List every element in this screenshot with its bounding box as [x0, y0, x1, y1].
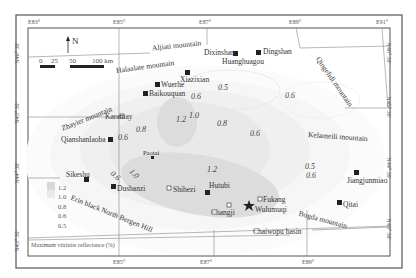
map-figure: N 0 25 50 100 km E83° E85° E87° E89° E91… [0, 0, 416, 278]
lat-tick-right-43: N43° 30' [386, 218, 392, 239]
legend-title: Maximum vitrinite reflectance (%) [31, 242, 115, 248]
city-wulumuqi: Wulumuqi [255, 206, 287, 214]
scale-label-50: 50 [69, 58, 76, 65]
contour-label-0-5-north: 0.5 [218, 84, 228, 92]
contour-label-0-6-nw: 0.6 [191, 93, 201, 101]
scale-label-25: 25 [51, 58, 58, 65]
lon-tick-bottom-e85: E85° [113, 259, 125, 265]
lat-tick-right-45: N45° 30' [386, 96, 392, 117]
basin-chaiwopu: Chaiwopu basin [253, 228, 302, 236]
legend-item-0-8: 0.8 [58, 204, 66, 211]
lon-tick-e91: E91° [376, 19, 388, 25]
lat-tick-left-45: N45° 30' [14, 102, 20, 123]
scale-label-0: 0 [39, 58, 43, 65]
city-huanghuagou: Huanghuagou [222, 58, 264, 66]
contour-label-0-6-west: 0.6 [118, 134, 128, 142]
lon-tick-e83: E83° [28, 19, 40, 25]
city-wuerhe: Wuerhe [161, 81, 184, 89]
lon-tick-e89: E89° [289, 19, 301, 25]
legend-item-1-2: 1.2 [58, 185, 66, 192]
city-sikeshu: Sikeshu [66, 171, 90, 179]
city-baikouquan: Baikouquan [149, 90, 185, 98]
contour-label-1-2-north: 1.2 [176, 116, 186, 124]
lon-tick-e87: E87° [199, 19, 211, 25]
contour-label-0-8-west: 0.8 [136, 126, 146, 134]
legend-item-1-0: 1.0 [58, 194, 66, 201]
lon-tick-bottom-e89: E89° [302, 259, 314, 265]
city-shihezi: Shihezi [173, 186, 196, 194]
city-changji: Changji [211, 209, 235, 217]
lat-tick-left-46: N46° 30' [14, 42, 20, 63]
city-dushanzi: Dushanzi [117, 185, 145, 193]
lat-tick-right-46: N46° 30' [386, 42, 392, 63]
contour-label-0-6-e: 0.6 [250, 130, 260, 138]
scale-label-100: 100 km [92, 58, 113, 65]
legend-item-0-5: 0.5 [58, 223, 66, 230]
city-paotai: Paotai [143, 150, 159, 157]
contour-label-0-5-east: 0.5 [305, 163, 315, 171]
city-fukang: Fukang [263, 196, 286, 204]
city-jiangjunmiao: Jiangjunmiao [347, 177, 387, 185]
legend-item-0-6: 0.6 [58, 213, 66, 220]
lat-tick-left-44: N44° 30' [14, 162, 20, 183]
city-dingshan: Dingshan [263, 48, 292, 56]
north-label: N [72, 37, 79, 46]
city-dixinshan: Dixinshan [204, 49, 235, 57]
city-karamay: Karamay [105, 113, 132, 121]
contour-label-0-8-ne: 0.8 [217, 120, 227, 128]
city-qitai: Qitai [343, 201, 358, 209]
contour-label-1-0-north: 1.0 [189, 112, 199, 120]
contour-label-0-6-east: 0.6 [306, 172, 316, 180]
city-qianshanlaoba: Qianshanlaoba [61, 136, 106, 144]
contour-label-1-2-south: 1.2 [207, 166, 217, 174]
lon-tick-bottom-e87: E87° [200, 259, 212, 265]
contour-label-0-6-ne: 0.6 [285, 92, 295, 100]
city-hutubi: Hutubi [209, 182, 230, 190]
lon-tick-e85: E85° [113, 19, 125, 25]
lat-tick-left-43: N43° 30' [14, 230, 20, 251]
